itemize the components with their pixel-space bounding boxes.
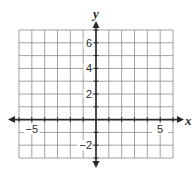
x-tick-label: −5	[26, 123, 39, 135]
coordinate-plane: −55642−2 x y	[0, 0, 194, 181]
y-axis-up-arrow-icon	[93, 21, 100, 28]
x-axis-label: x	[184, 113, 192, 128]
y-tick-label: 6	[86, 37, 92, 49]
y-axis-down-arrow-icon	[93, 161, 100, 168]
x-axis-right-arrow-icon	[177, 116, 184, 123]
y-tick-label: −2	[79, 139, 92, 151]
x-axis-left-arrow-icon	[8, 116, 15, 123]
x-tick-label: 5	[157, 123, 163, 135]
y-axis-label: y	[91, 6, 99, 21]
y-tick-label: 2	[86, 88, 92, 100]
y-tick-label: 4	[86, 62, 92, 74]
